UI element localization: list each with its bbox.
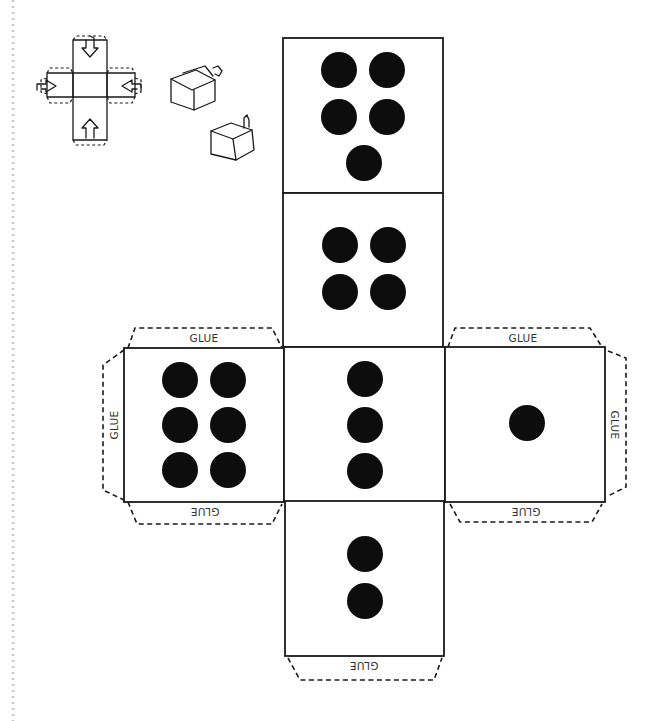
glue-label-one-right: GLUE	[609, 411, 621, 440]
glue-label-six-left: GLUE	[108, 411, 120, 440]
pips-one	[509, 405, 545, 441]
pip	[321, 99, 357, 135]
glue-label-two-bottom: GLUE	[350, 660, 379, 672]
arrow-up-icon	[82, 119, 98, 138]
glue-label-six-top: GLUE	[190, 332, 219, 344]
pip	[210, 362, 246, 398]
pip	[162, 407, 198, 443]
arrow-down-icon	[82, 36, 98, 57]
glue-label-six-bottom: GLUE	[191, 506, 220, 518]
pip	[321, 52, 357, 88]
pip	[347, 583, 383, 619]
pip	[347, 453, 383, 489]
pip	[347, 536, 383, 572]
glue-label-one-bottom: GLUE	[512, 506, 541, 518]
pip	[322, 227, 358, 263]
glue-label-one-top: GLUE	[509, 332, 538, 344]
pip	[369, 52, 405, 88]
pip	[162, 362, 198, 398]
arrow-left-icon	[122, 80, 141, 92]
die-face-two	[285, 501, 444, 656]
pip	[369, 99, 405, 135]
die-face-four	[283, 193, 443, 347]
folding-cube-icon	[171, 66, 222, 110]
pip	[370, 274, 406, 310]
folding-net-diagram-icon	[37, 36, 141, 145]
pip	[162, 452, 198, 488]
pip	[370, 227, 406, 263]
die-face-six	[124, 348, 284, 502]
pip	[346, 145, 382, 181]
pips-three	[347, 361, 383, 489]
pip	[210, 452, 246, 488]
closing-cube-icon	[211, 115, 254, 160]
pip	[347, 361, 383, 397]
pip	[210, 407, 246, 443]
pip	[322, 274, 358, 310]
dice-net-diagram: GLUE GLUE GLUE GLUE GLUE GLUE GLUE	[0, 0, 668, 721]
pip	[347, 407, 383, 443]
pip	[509, 405, 545, 441]
